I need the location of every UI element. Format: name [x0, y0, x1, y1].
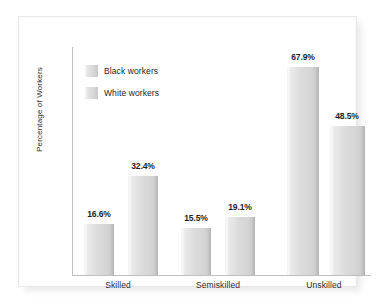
bar-value-semiskilled-black-workers: 15.5% — [171, 213, 221, 223]
bar-value-unskilled-white-workers: 48.5% — [321, 111, 373, 121]
bar-unskilled-black-workers — [287, 67, 319, 275]
bar-value-skilled-white-workers: 32.4% — [118, 161, 168, 171]
bar-skilled-white-workers — [128, 176, 158, 275]
bar-semiskilled-white-workers — [225, 217, 255, 275]
x-axis-line — [72, 275, 371, 276]
bar-value-skilled-black-workers: 16.6% — [74, 209, 124, 219]
plot-area: 16.6% 32.4% 15.5% 19.1% 67.9% 48.5% — [72, 47, 370, 275]
chart-screenshot: Percentage of Workers Black workers Whit… — [0, 0, 382, 307]
bar-skilled-black-workers — [84, 224, 114, 275]
bar-value-unskilled-black-workers: 67.9% — [277, 52, 329, 62]
x-axis-label-skilled: Skilled — [76, 280, 160, 290]
y-axis-title: Percentage of Workers — [35, 30, 44, 190]
chart-card: Percentage of Workers Black workers Whit… — [18, 16, 357, 287]
x-axis-label-semiskilled: Semiskilled — [171, 280, 265, 290]
bar-semiskilled-black-workers — [181, 228, 211, 275]
x-axis-label-unskilled: Unskilled — [281, 280, 367, 290]
bar-value-semiskilled-white-workers: 19.1% — [215, 202, 265, 212]
bar-unskilled-white-workers — [330, 126, 365, 275]
